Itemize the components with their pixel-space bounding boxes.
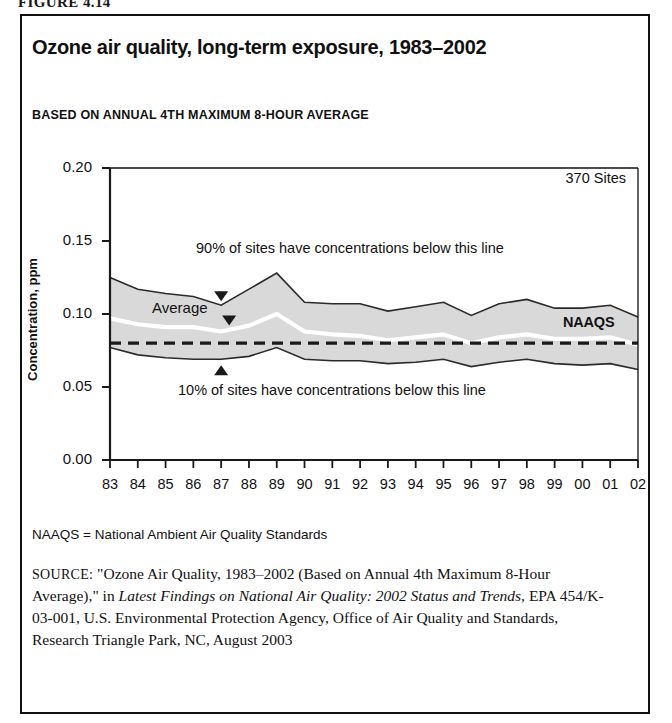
- y-axis-tick-label: 0.20: [42, 158, 92, 175]
- x-axis-tick-label: 96: [458, 476, 484, 492]
- x-axis-tick-label: 98: [514, 476, 540, 492]
- y-axis-tick-label: 0.05: [42, 377, 92, 394]
- source-note: SOURCE: "Ozone Air Quality, 1983–2002 (B…: [32, 563, 612, 651]
- sites-count-label: 370 Sites: [566, 170, 626, 186]
- x-axis-tick-label: 99: [542, 476, 568, 492]
- source-kicker: SOURCE:: [32, 567, 93, 582]
- naaqs-abbreviation-note: NAAQS = National Ambient Air Quality Sta…: [32, 527, 327, 542]
- x-axis-tick-label: 93: [375, 476, 401, 492]
- x-axis-tick-label: 02: [625, 476, 651, 492]
- x-axis-tick-label: 90: [292, 476, 318, 492]
- x-axis-tick-label: 85: [153, 476, 179, 492]
- x-axis-tick-label: 92: [347, 476, 373, 492]
- x-axis-tick-label: 86: [180, 476, 206, 492]
- y-axis-tick-label: 0.10: [42, 304, 92, 321]
- x-axis-tick-label: 88: [236, 476, 262, 492]
- x-axis-tick-label: 94: [403, 476, 429, 492]
- x-axis-tick-label: 95: [430, 476, 456, 492]
- x-axis-tick-label: 91: [319, 476, 345, 492]
- x-axis-tick-label: 01: [597, 476, 623, 492]
- naaqs-line-label: NAAQS: [563, 314, 614, 330]
- x-axis-tick-label: 89: [264, 476, 290, 492]
- y-axis-title: Concentration, ppm: [25, 250, 40, 390]
- upper-percentile-annotation: 90% of sites have concentrations below t…: [196, 240, 504, 256]
- y-axis-tick-label: 0.00: [42, 450, 92, 467]
- x-axis-tick-label: 84: [125, 476, 151, 492]
- x-axis-tick-label: 83: [97, 476, 123, 492]
- y-axis-tick-label: 0.15: [42, 231, 92, 248]
- lower-percentile-annotation: 10% of sites have concentrations below t…: [178, 382, 486, 398]
- source-publication-title: Latest Findings on National Air Quality:…: [119, 587, 525, 604]
- x-axis-tick-label: 97: [486, 476, 512, 492]
- average-series-label: Average: [152, 299, 208, 316]
- x-axis-tick-label: 00: [569, 476, 595, 492]
- x-axis-tick-label: 87: [208, 476, 234, 492]
